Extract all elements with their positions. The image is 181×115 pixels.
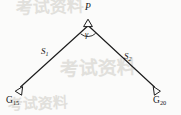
right-station-label: G20 bbox=[153, 96, 166, 106]
left-leg-label-subscript: 1 bbox=[46, 51, 49, 57]
right-station-label-subscript: 20 bbox=[160, 99, 166, 106]
right-leg-label-subscript: 2 bbox=[129, 56, 132, 62]
left-station-label: G15 bbox=[6, 96, 19, 106]
apex-point-label: P bbox=[85, 3, 91, 13]
left-station-label-subscript: 15 bbox=[13, 99, 19, 106]
left-station-label-base: G bbox=[6, 95, 13, 105]
watermark-group: 考试资料 考试资料 考试资料 bbox=[8, 0, 137, 114]
left-leg-label-base: S bbox=[41, 46, 46, 56]
left-station-marker-icon bbox=[15, 87, 22, 96]
apex-marker-icon bbox=[84, 19, 93, 26]
diagram-canvas: 考试资料 考试资料 考试资料 P γ S1 S2 G15 G20 bbox=[0, 0, 181, 115]
angle-label-gamma: γ bbox=[85, 31, 88, 39]
right-station-marker-icon bbox=[153, 86, 160, 95]
left-leg-label: S1 bbox=[41, 47, 49, 56]
watermark-text-top: 考试资料 bbox=[14, 0, 84, 18]
right-leg-label-base: S bbox=[124, 51, 129, 61]
right-leg-label: S2 bbox=[124, 52, 132, 61]
right-station-label-base: G bbox=[153, 95, 160, 105]
